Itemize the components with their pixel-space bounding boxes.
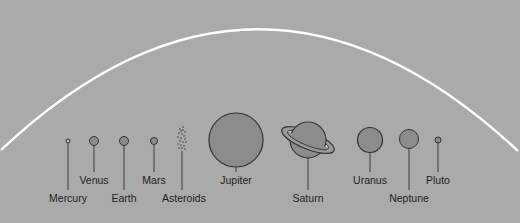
mercury-icon: [66, 139, 70, 143]
label-pluto: Pluto: [426, 174, 450, 186]
body-saturn: [279, 121, 338, 190]
body-venus: [90, 137, 99, 173]
diagram-canvas: [0, 0, 520, 223]
label-mars: Mars: [142, 174, 165, 186]
label-mercury: Mercury: [49, 192, 87, 204]
venus-icon: [90, 137, 99, 146]
body-uranus: [358, 128, 383, 173]
body-asteroids: [177, 126, 187, 190]
asteroids-icon: [177, 126, 187, 150]
body-mars: [151, 138, 158, 173]
body-pluto: [435, 137, 441, 172]
jupiter-icon: [209, 113, 263, 167]
label-uranus: Uranus: [353, 174, 387, 186]
body-mercury: [66, 139, 70, 190]
pluto-icon: [435, 137, 441, 143]
body-neptune: [400, 130, 419, 191]
label-asteroids: Asteroids: [162, 192, 206, 204]
neptune-icon: [400, 130, 419, 149]
saturn-icon: [279, 121, 338, 159]
label-earth: Earth: [111, 192, 136, 204]
label-jupiter: Jupiter: [220, 174, 252, 186]
label-saturn: Saturn: [293, 192, 324, 204]
body-earth: [120, 137, 129, 191]
solar-system-diagram: Mercury Venus Earth Mars Asteroids Jupit…: [0, 0, 520, 223]
earth-icon: [120, 137, 129, 146]
uranus-icon: [358, 128, 383, 153]
body-jupiter: [209, 113, 263, 172]
mars-icon: [151, 138, 158, 145]
label-neptune: Neptune: [389, 192, 429, 204]
label-venus: Venus: [79, 174, 108, 186]
